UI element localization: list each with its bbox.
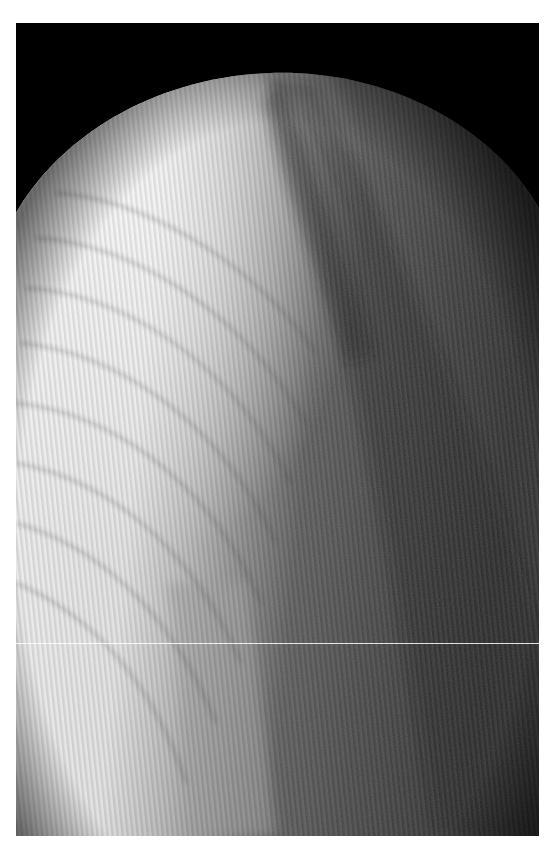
specimen-image [16, 23, 539, 836]
specimen-body [16, 23, 539, 836]
specimen-render [16, 23, 539, 836]
